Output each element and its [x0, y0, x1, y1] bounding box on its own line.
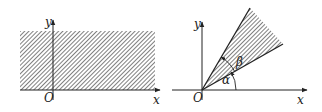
x-axis-label: x [153, 93, 160, 107]
alpha-arc [231, 72, 236, 90]
angle-beta-label: β [235, 55, 243, 69]
right-figure: y O x α β [172, 8, 307, 107]
diagram-canvas: y O x y O x α β [0, 0, 322, 112]
origin-label: O [193, 91, 203, 105]
y-axis-label: y [193, 17, 201, 31]
origin-label: O [44, 91, 54, 105]
left-figure: y O x [20, 15, 160, 107]
y-axis-label: y [44, 15, 52, 29]
hatched-half-plane [20, 31, 155, 90]
x-axis-label: x [297, 93, 304, 107]
angle-alpha-label: α [222, 73, 230, 87]
